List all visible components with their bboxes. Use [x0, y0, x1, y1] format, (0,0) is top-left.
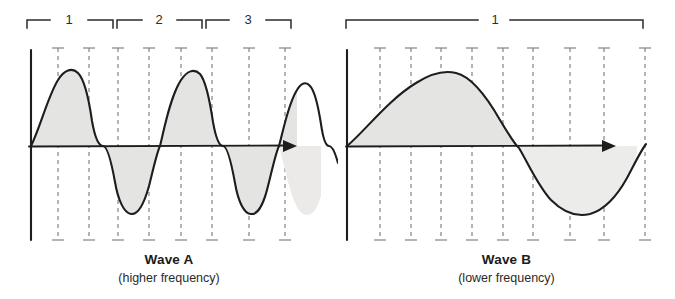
wave-b-subtitle: (lower frequency) — [338, 271, 675, 287]
wave-a-x-axis — [29, 146, 290, 147]
wave-a-fill-tail — [279, 146, 321, 215]
wave-b-title: Wave B — [338, 252, 675, 269]
wave-comparison-figure: 1 2 3 Wave A (higher frequency) — [0, 0, 675, 299]
wave-a-fill — [31, 70, 297, 214]
wave-a-cycle-label-1: 1 — [65, 12, 72, 27]
cycle-bracket-1-right — [88, 20, 113, 28]
wave-b-caption: Wave B (lower frequency) — [338, 252, 675, 287]
wave-a-subtitle: (higher frequency) — [0, 271, 338, 287]
cycle-bracket-1-left — [346, 20, 478, 28]
wave-a-title: Wave A — [0, 252, 338, 269]
cycle-bracket-3-right — [266, 20, 291, 28]
wave-b-x-axis — [346, 146, 609, 147]
wave-b-diagram — [338, 0, 675, 252]
cycle-bracket-1-left — [27, 20, 50, 28]
wave-b-cycle-label-1: 1 — [491, 12, 498, 27]
cycle-bracket-1-right — [510, 20, 643, 28]
wave-b-panel: 1 Wave B (lower frequency) — [338, 0, 675, 299]
cycle-bracket-2-left — [117, 20, 142, 28]
cycle-bracket-2-right — [177, 20, 202, 28]
wave-a-cycle-label-2: 2 — [155, 12, 162, 27]
wave-a-diagram — [0, 0, 338, 252]
wave-a-caption: Wave A (higher frequency) — [0, 252, 338, 287]
wave-a-cycle-label-3: 3 — [244, 12, 251, 27]
wave-a-panel: 1 2 3 Wave A (higher frequency) — [0, 0, 338, 299]
cycle-bracket-3-left — [206, 20, 229, 28]
